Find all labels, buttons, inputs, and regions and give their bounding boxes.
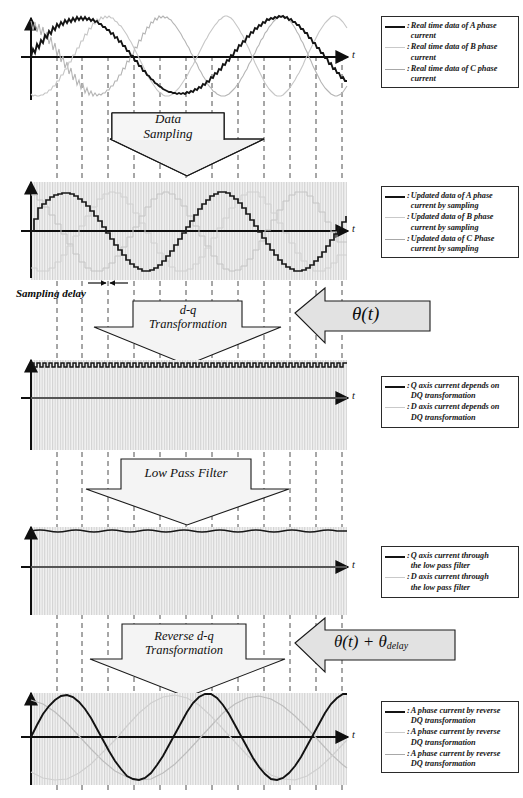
legend-colon: : [407, 21, 410, 31]
hatch-band-filtered [31, 527, 347, 615]
legend-label: Q axis current depends on DQ transformat… [411, 381, 500, 401]
panel-filtered [21, 527, 348, 615]
theta-t-plus-delay-label: θ(t) + θdelay [334, 632, 408, 652]
legend-line-icon-c [385, 239, 405, 240]
theta-sub-base: θ [378, 632, 386, 651]
legend-panel-raw: : Real time data of A phase current : Re… [381, 16, 519, 88]
legend-line-icon-a [385, 196, 405, 198]
legend-label: Real time data of B phase current [411, 42, 498, 62]
legend-item: : A phase current by reverse DQ transfor… [385, 706, 514, 726]
data-sampling-arrow [110, 113, 264, 176]
legend-colon: : [407, 402, 410, 412]
legend-line-icon-b [385, 732, 405, 733]
legend-line-icon-a [385, 711, 405, 713]
legend-label: A phase current by reverse DQ transforma… [411, 706, 501, 726]
legend-colon: : [407, 727, 410, 737]
legend-colon: : [407, 42, 410, 52]
legend-label: Updated data of A phase current by sampl… [411, 191, 493, 211]
panel-dq [21, 360, 348, 450]
legend-line-icon-a [385, 26, 405, 28]
legend-item: : Real time data of A phase current [385, 21, 514, 41]
legend-panel-sampled: : Updated data of A phase current by sam… [381, 186, 519, 258]
reverse-dq-transformation-arrow [90, 624, 285, 697]
legend-label: Real time data of A phase current [411, 21, 497, 41]
legend-colon: : [407, 572, 410, 582]
theta-sub: delay [387, 640, 408, 651]
legend-colon: : [407, 749, 410, 759]
legend-item: : Updated data of B phase current by sam… [385, 212, 514, 232]
legend-colon: : [407, 191, 410, 201]
legend-item: : D axis current depends on DQ transform… [385, 402, 514, 422]
axis-label-t-dq: t [352, 390, 355, 401]
legend-colon: : [407, 212, 410, 222]
legend-line-icon-d [385, 577, 405, 578]
legend-colon: : [407, 706, 410, 716]
legend-label: Updated data of B phase current by sampl… [411, 212, 494, 232]
legend-line-icon-q [385, 556, 405, 558]
low-pass-filter-arrow [86, 459, 289, 525]
legend-line-icon-c [385, 69, 405, 70]
legend-item: : Real time data of C phase current [385, 64, 514, 84]
diagram-canvas: t t t t t Sampling delay Data Sampling d… [0, 0, 523, 798]
legend-line-icon-q [385, 386, 405, 388]
legend-label: D axis current depends on DQ transformat… [411, 402, 500, 422]
legend-colon: : [407, 234, 410, 244]
legend-item: : Updated data of C Phase current by sam… [385, 234, 514, 254]
legend-label: A phase current by reverse DQ transforma… [411, 749, 501, 769]
legend-label: Real time data of C phase current [411, 64, 498, 84]
axis-label-t-raw: t [352, 49, 355, 60]
axis-label-t-filtered: t [352, 559, 355, 570]
hatch-band-dq [31, 360, 347, 450]
panel-sampled [21, 182, 348, 283]
legend-item: : D axis current through the low pass fi… [385, 572, 514, 592]
legend-item: : A phase current by reverse DQ transfor… [385, 749, 514, 769]
theta-plus: + [358, 632, 378, 651]
legend-label: Q axis current through the low pass filt… [411, 551, 489, 571]
legend-panel-reverse: : A phase current by reverse DQ transfor… [381, 701, 519, 773]
theta-t-label: θ(t) [352, 303, 379, 325]
legend-item: : Real time data of B phase current [385, 42, 514, 62]
legend-item: : Updated data of A phase current by sam… [385, 191, 514, 211]
legend-line-icon-b [385, 47, 405, 48]
legend-label: Updated data of C Phase current by sampl… [411, 234, 495, 254]
legend-panel-dq: : Q axis current depends on DQ transform… [381, 376, 519, 428]
legend-colon: : [407, 551, 410, 561]
legend-label: D axis current through the low pass filt… [411, 572, 489, 592]
sampling-delay-label: Sampling delay [16, 287, 86, 299]
legend-label: A phase current by reverse DQ transforma… [411, 727, 501, 747]
legend-item: : Q axis current depends on DQ transform… [385, 381, 514, 401]
legend-line-icon-b [385, 217, 405, 218]
panel-reverse [21, 693, 348, 785]
legend-line-icon-c [385, 754, 405, 755]
dq-transformation-arrow [94, 301, 281, 365]
legend-colon: : [407, 381, 410, 391]
legend-item: : Q axis current through the low pass fi… [385, 551, 514, 571]
legend-panel-filtered: : Q axis current through the low pass fi… [381, 546, 519, 598]
hatch-band-reverse [31, 693, 347, 785]
panel-raw [21, 16, 348, 100]
theta-main: θ(t) [334, 632, 358, 651]
legend-line-icon-d [385, 407, 405, 408]
legend-item: : A phase current by reverse DQ transfor… [385, 727, 514, 747]
axis-label-t-reverse: t [352, 729, 355, 740]
axis-label-t-sampled: t [352, 223, 355, 234]
legend-colon: : [407, 64, 410, 74]
